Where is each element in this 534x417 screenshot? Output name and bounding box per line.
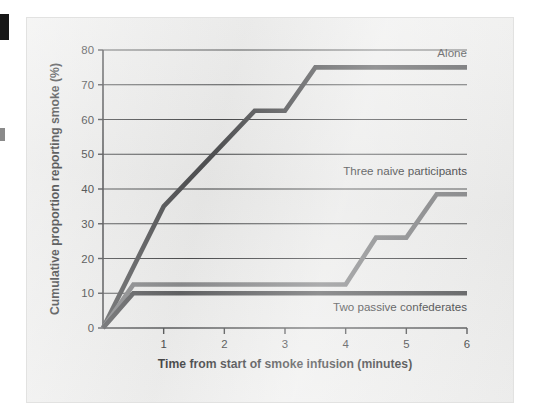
x-tick-label-1: 1 xyxy=(160,338,166,350)
y-axis-title: Cumulative proportion reporting smoke (%… xyxy=(48,63,62,315)
x-tick-label-2: 2 xyxy=(221,338,227,350)
y-tick-label-80: 80 xyxy=(81,44,94,56)
series-label-three-naive-participants: Three naive participants xyxy=(343,164,467,177)
series-label-alone: Alone xyxy=(437,46,467,59)
x-tick-label-4: 4 xyxy=(342,338,348,350)
x-tick-label-5: 5 xyxy=(403,338,409,350)
y-tick-label-50: 50 xyxy=(81,148,94,160)
series-line-alone xyxy=(103,67,467,328)
y-tick-label-60: 60 xyxy=(81,114,94,126)
y-tick-label-40: 40 xyxy=(81,183,94,195)
series-lines-group xyxy=(103,67,467,328)
y-tick-label-30: 30 xyxy=(81,218,94,230)
line-chart: 01020304050607080 123456 AloneThree naiv… xyxy=(27,18,513,402)
x-tick-label-3: 3 xyxy=(282,338,288,350)
chart-figure-panel: 01020304050607080 123456 AloneThree naiv… xyxy=(27,18,513,402)
x-tick-label-6: 6 xyxy=(464,338,470,350)
y-axis-ticks: 01020304050607080 xyxy=(81,44,103,334)
y-tick-label-10: 10 xyxy=(81,287,94,299)
y-tick-label-20: 20 xyxy=(81,253,94,265)
y-tick-label-0: 0 xyxy=(88,322,94,334)
x-axis-ticks: 123456 xyxy=(160,328,470,350)
page-edge-marker-top xyxy=(0,14,9,40)
x-axis-title: Time from start of smoke infusion (minut… xyxy=(158,357,412,371)
y-tick-label-70: 70 xyxy=(81,79,94,91)
figure-page: 01020304050607080 123456 AloneThree naiv… xyxy=(0,0,534,417)
series-label-two-passive-confederates: Two passive confederates xyxy=(333,300,467,313)
page-edge-marker-middle xyxy=(0,128,5,141)
